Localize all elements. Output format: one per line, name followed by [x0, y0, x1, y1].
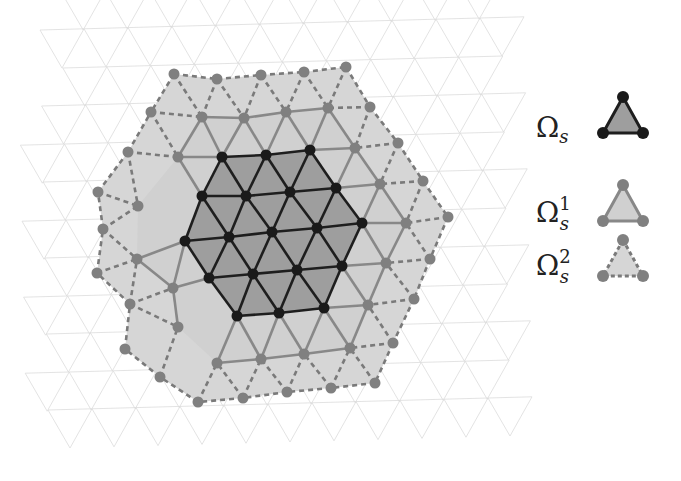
legend-label-omega-s2: Ω2s — [536, 246, 571, 287]
legend-item-omega-s1: Ω1s — [536, 179, 649, 234]
subdomain-diagram: Ωs Ω1s Ω2s — [0, 0, 681, 481]
legend-label-omega-s1: Ω1s — [536, 193, 571, 234]
legend-ring2-triangle-icon — [597, 234, 649, 282]
legend-item-omega-s2: Ω2s — [536, 234, 649, 287]
legend-item-omega-s: Ωs — [536, 91, 649, 147]
legend-core-triangle-icon — [597, 91, 649, 139]
legend: Ωs Ω1s Ω2s — [536, 91, 649, 287]
legend-label-omega-s: Ωs — [536, 111, 568, 147]
legend-ring1-triangle-icon — [597, 179, 649, 227]
